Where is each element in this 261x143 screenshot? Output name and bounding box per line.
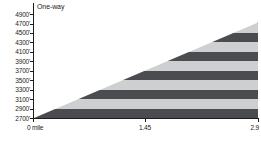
y-tick	[30, 71, 33, 72]
x-tick	[258, 119, 259, 122]
y-tick-label: 4700'	[4, 20, 30, 27]
y-tick-label: 3300'	[4, 86, 30, 93]
y-tick	[30, 14, 33, 15]
y-tick-label: 4100'	[4, 48, 30, 55]
y-tick	[30, 61, 33, 62]
y-tick-label: 4300'	[4, 39, 30, 46]
elevation-profile-chart: One-way 4900' 4700' 4500' 4300' 4100' 39…	[0, 0, 261, 143]
y-tick	[30, 99, 33, 100]
x-tick-label: 1.45	[133, 124, 157, 131]
y-tick	[30, 80, 33, 81]
x-axis-line	[33, 118, 259, 119]
y-tick	[30, 52, 33, 53]
y-tick	[30, 109, 33, 110]
y-tick-label: 3700'	[4, 67, 30, 74]
chart-title: One-way	[37, 3, 64, 10]
elevation-profile-area	[34, 14, 258, 118]
y-tick-label: 2700'	[4, 115, 30, 122]
y-tick	[30, 90, 33, 91]
x-tick-label: 2.9	[245, 124, 259, 131]
y-tick-label: 4900'	[4, 11, 30, 18]
x-tick-label: 0 mile	[27, 124, 57, 131]
y-tick-label: 3500'	[4, 77, 30, 84]
y-tick-label: 4500'	[4, 29, 30, 36]
y-tick	[30, 42, 33, 43]
y-tick	[30, 24, 33, 25]
y-tick-label: 2900'	[4, 105, 30, 112]
y-tick-label: 3100'	[4, 96, 30, 103]
y-axis-line	[33, 3, 34, 119]
y-tick	[30, 33, 33, 34]
x-tick	[145, 119, 146, 122]
y-tick-label: 3900'	[4, 58, 30, 65]
x-tick	[33, 119, 34, 122]
